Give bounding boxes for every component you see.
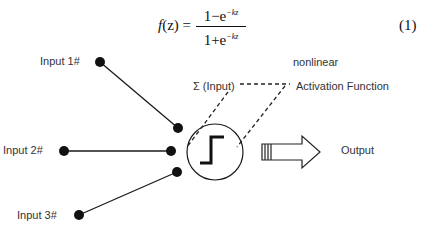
input-2-source-node-icon xyxy=(59,146,69,156)
input-2-label: Input 2# xyxy=(3,144,43,156)
input-1-connection xyxy=(100,62,178,128)
input-3-source-node-icon xyxy=(74,210,84,220)
input-1-source-node-icon xyxy=(95,57,105,67)
input-1-label: Input 1# xyxy=(40,55,80,67)
neuron-circle xyxy=(187,124,243,180)
nonlinear-label: nonlinear xyxy=(293,56,338,68)
input-2-target-node-icon xyxy=(166,146,176,156)
activation-pointer-dash xyxy=(237,86,285,147)
step-function-icon xyxy=(200,137,224,163)
sum-input-label: Σ (Input) xyxy=(193,80,235,92)
input-3-connection xyxy=(79,172,177,215)
neuron-diagram xyxy=(0,0,421,232)
output-label: Output xyxy=(341,144,374,156)
hollow-right-arrow-icon xyxy=(262,136,320,168)
input-3-target-node-icon xyxy=(172,167,182,177)
input-3-label: Input 3# xyxy=(17,209,57,221)
activation-function-label: Activation Function xyxy=(296,80,389,92)
input-1-target-node-icon xyxy=(173,123,183,133)
sum-pointer-dash xyxy=(187,92,228,147)
